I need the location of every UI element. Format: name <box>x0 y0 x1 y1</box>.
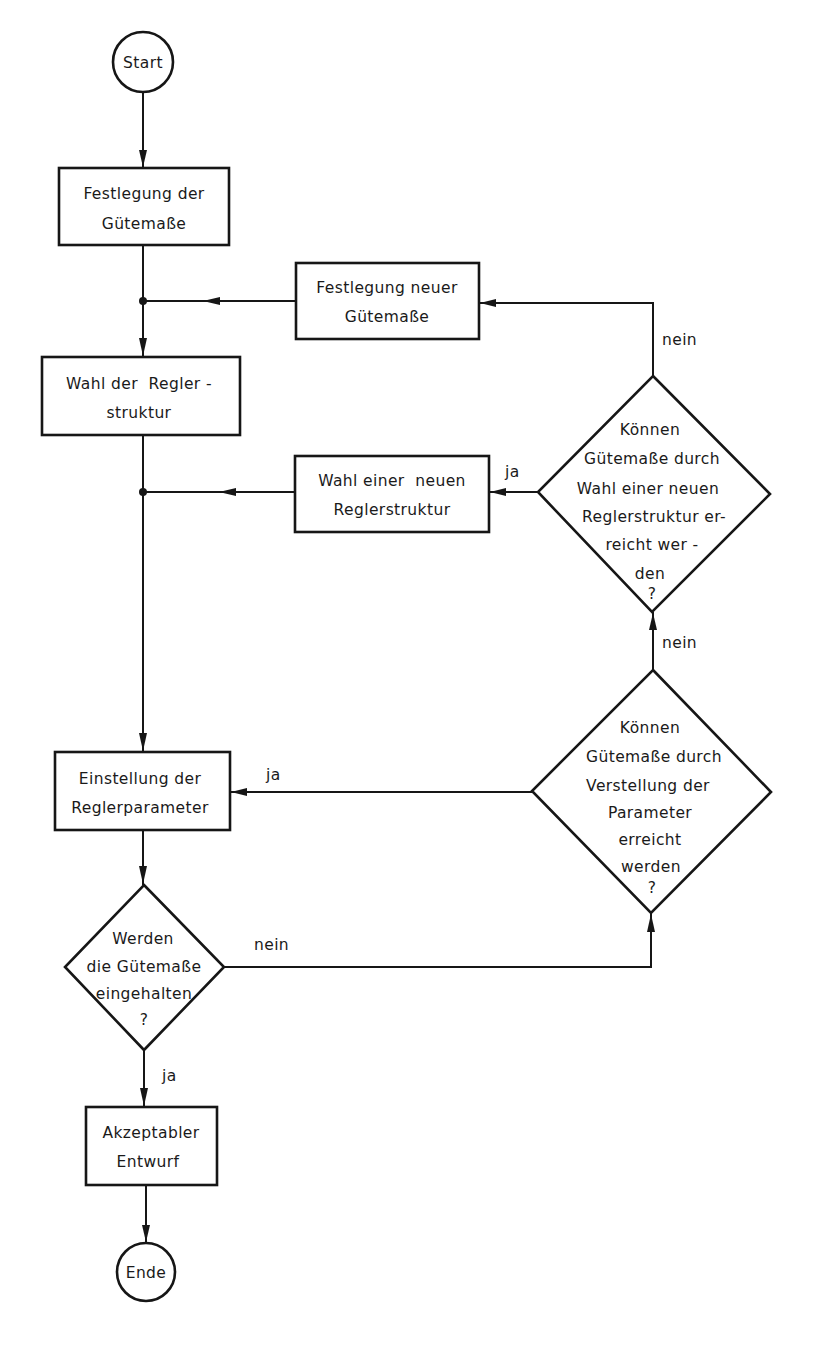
decision-label: ? <box>648 585 657 603</box>
decision-label: Können <box>620 421 680 439</box>
end-label: Ende <box>126 1264 167 1282</box>
decision-label: Gütemaße durch <box>586 748 722 766</box>
edge-label-no: nein <box>662 331 697 349</box>
flowchart-canvas: Start Festlegung der Gütemaße Festlegung… <box>0 0 813 1349</box>
decision-new-structure: Können Gütemaße durch Wahl einer neuen R… <box>538 376 770 612</box>
decision-label: Gütemaße durch <box>584 450 720 468</box>
process-label: Festlegung neuer <box>316 279 458 297</box>
process-label: Gütemaße <box>345 308 430 326</box>
process-label: Entwurf <box>117 1153 180 1171</box>
start-terminal: Start <box>113 32 173 92</box>
edge-label-no: nein <box>254 936 289 954</box>
process-label: Gütemaße <box>102 215 187 233</box>
decision-adjust-parameters: Können Gütemaße durch Verstellung der Pa… <box>532 670 771 913</box>
decision-label: ? <box>648 879 657 897</box>
process-set-controller-parameters: Einstellung der Reglerparameter <box>55 752 230 830</box>
process-accept-design: Akzeptabler Entwurf <box>86 1107 217 1185</box>
decision-label: Können <box>620 719 680 737</box>
process-label: Akzeptabler <box>102 1124 199 1142</box>
process-define-new-quality-criteria: Festlegung neuer Gütemaße <box>296 263 479 339</box>
process-choose-new-controller-structure: Wahl einer neuen Reglerstruktur <box>295 456 489 532</box>
decision-label: Wahl einer neuen <box>577 480 719 498</box>
decision-label: werden <box>621 858 681 876</box>
end-terminal: Ende <box>117 1243 175 1301</box>
edge-label-yes: ja <box>265 766 281 784</box>
decision-label: eingehalten <box>96 985 193 1003</box>
process-label: Reglerstruktur <box>334 501 451 519</box>
decision-label: Verstellung der <box>586 777 710 795</box>
process-label: Wahl einer neuen <box>318 472 466 490</box>
edge-label-yes: ja <box>161 1067 177 1085</box>
process-define-quality-criteria: Festlegung der Gütemaße <box>59 168 229 245</box>
process-label: Reglerparameter <box>71 799 209 817</box>
decision-label: die Gütemaße <box>87 958 202 976</box>
decision-quality-met: Werden die Gütemaße eingehalten ? <box>65 885 224 1050</box>
process-choose-controller-structure: Wahl der Regler - struktur <box>42 357 240 435</box>
process-label: struktur <box>107 404 172 422</box>
process-label: Wahl der Regler - <box>66 375 212 393</box>
process-label: Festlegung der <box>83 185 204 203</box>
edge-label-no: nein <box>662 634 697 652</box>
decision-label: Werden <box>112 930 174 948</box>
decision-label: den <box>635 565 665 583</box>
start-label: Start <box>123 54 163 72</box>
edge-label-yes: ja <box>504 463 520 481</box>
process-label: Einstellung der <box>79 770 202 788</box>
decision-label: erreicht <box>618 831 681 849</box>
decision-label: Reglerstruktur er- <box>582 508 726 526</box>
decision-label: ? <box>140 1011 149 1029</box>
decision-label: Parameter <box>608 804 692 822</box>
decision-label: reicht wer - <box>605 536 698 554</box>
